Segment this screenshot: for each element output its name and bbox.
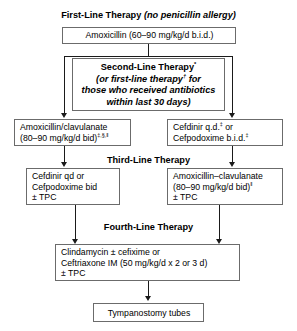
fourth-line-box: Clindamycin ± cefixime or Ceftriaxone IM… bbox=[55, 244, 240, 281]
first-line-amoxicillin-box: Amoxicillin (60–90 mg/kg/d b.i.d.) bbox=[62, 27, 236, 44]
second-line-right-line2-superscript: ‡ bbox=[245, 132, 248, 138]
arrow-to-second-line-left-box bbox=[61, 113, 67, 118]
third-line-right-box: Amoxicillin–clavulanate (80–90 mg/kg/d b… bbox=[167, 168, 283, 205]
second-line-header-line1: Second-Line Therapy* bbox=[73, 62, 224, 74]
third-line-left-line2: Cefpodoxime bid bbox=[32, 182, 115, 193]
first-line-therapy-title: First-Line Therapy (no penicillin allerg… bbox=[0, 10, 297, 21]
fourth-line-line1: Clindamycin ± cefixime or bbox=[61, 247, 235, 258]
second-line-left-line1: Amoxicillin/clavulanate bbox=[20, 122, 126, 133]
treatment-algorithm-flowchart: First-Line Therapy (no penicillin allerg… bbox=[0, 0, 297, 331]
third-line-left-line3: ± TPC bbox=[32, 192, 115, 203]
first-line-title-bold: First-Line Therapy bbox=[61, 10, 141, 20]
third-line-left-line1: Cefdinir qd or bbox=[32, 171, 115, 182]
fourth-line-line3: ± TPC bbox=[61, 268, 235, 279]
second-line-header-line4: within last 30 days) bbox=[73, 97, 224, 109]
second-line-right-line1: Cefdinir q.d.‡ or bbox=[173, 122, 278, 133]
arrow-to-final-box bbox=[145, 296, 151, 301]
arrow-to-second-line-right-box bbox=[229, 113, 235, 118]
second-line-header-line3: those who received antibiotics bbox=[73, 85, 224, 97]
second-line-right-box: Cefdinir q.d.‡ or Cefpodoxime b.i.d.‡ bbox=[167, 119, 283, 146]
connector-split-left-down bbox=[64, 56, 65, 115]
fourth-line-line2: Ceftriaxone IM (50 mg/kg/d x 2 or 3 d) bbox=[61, 258, 235, 269]
third-line-left-box: Cefdinir qd or Cefpodoxime bid ± TPC bbox=[26, 168, 120, 205]
third-line-right-line3: ± TPC bbox=[173, 192, 278, 203]
second-line-left-line2: (80–90 mg/kg/d bid)‡,§,‖ bbox=[20, 133, 126, 144]
tympanostomy-tubes-text: Tympanostomy tubes bbox=[108, 308, 191, 318]
connector-split-horizontal bbox=[64, 56, 233, 57]
third-line-therapy-title: Third-Line Therapy bbox=[0, 155, 297, 166]
tympanostomy-tubes-box: Tympanostomy tubes bbox=[93, 303, 204, 322]
third-line-right-line2: (80–90 mg/kg/d bid)‖ bbox=[173, 182, 278, 193]
second-line-left-superscript: ‡,§,‖ bbox=[97, 132, 108, 138]
first-line-amoxicillin-text: Amoxicillin (60–90 mg/kg/d b.i.d.) bbox=[86, 30, 214, 40]
first-line-title-italic: (no penicillin allergy) bbox=[144, 10, 236, 20]
second-line-therapy-header-box: Second-Line Therapy* (or first-line ther… bbox=[72, 58, 225, 111]
second-line-header-line1-superscript: * bbox=[194, 61, 196, 67]
connector-first-to-split bbox=[148, 44, 149, 56]
fourth-line-therapy-title: Fourth-Line Therapy bbox=[0, 222, 297, 233]
connector-split-right-down bbox=[232, 56, 233, 115]
second-line-left-box: Amoxicillin/clavulanate (80–90 mg/kg/d b… bbox=[14, 119, 131, 146]
second-line-right-line2: Cefpodoxime b.i.d.‡ bbox=[173, 133, 278, 144]
third-line-right-line1: Amoxicillin–clavulanate bbox=[173, 171, 278, 182]
second-line-header-line2: (or first-line therapy† for bbox=[73, 74, 224, 86]
third-line-right-superscript: ‖ bbox=[250, 181, 252, 187]
